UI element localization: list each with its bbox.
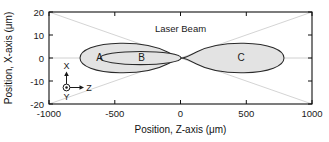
laser-beam-annotation: Laser Beam	[155, 23, 206, 34]
axis-key-label-z: Z	[86, 83, 92, 93]
y-tick-label-10: 10	[33, 30, 44, 41]
x-tick-label-neg500: -500	[105, 108, 124, 119]
y-tick-label-neg10: -10	[30, 76, 44, 87]
region-label-b: B	[138, 52, 145, 63]
region-label-a: A	[96, 52, 103, 63]
axis-key-y-dot-icon	[65, 86, 68, 89]
y-tick-label-20: 20	[33, 7, 44, 18]
x-tick-label-1000: 1000	[301, 108, 322, 119]
x-tick-label-0: 0	[178, 108, 183, 119]
y-axis-title: Position, X-axis (μm)	[3, 12, 14, 104]
y-tick-label-0: 0	[39, 53, 44, 64]
x-tick-label-neg1000: -1000	[37, 108, 61, 119]
figure-container: A B C Laser Beam	[0, 0, 329, 142]
plot-svg: A B C Laser Beam	[0, 0, 329, 142]
x-axis-title: Position, Z-axis (μm)	[135, 124, 227, 135]
region-label-c: C	[237, 52, 244, 63]
x-tick-label-500: 500	[238, 108, 254, 119]
axis-key-label-x: X	[63, 61, 69, 71]
axis-key-label-y: Y	[63, 92, 69, 102]
